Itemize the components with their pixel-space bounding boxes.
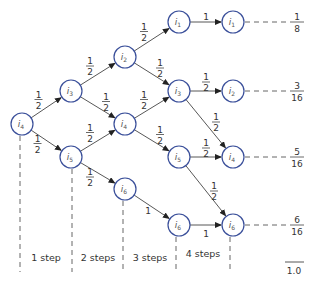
edge-arrow (134, 97, 168, 118)
step-label: 2 steps (81, 252, 116, 263)
svg-text:1: 1 (213, 112, 219, 122)
edge-arrow (80, 63, 115, 85)
outcome-probability: 616 (290, 215, 304, 237)
total-sum: 1.0 (285, 262, 304, 276)
state-node: i4 (222, 146, 244, 168)
svg-text:1: 1 (87, 123, 93, 133)
svg-text:2: 2 (141, 101, 147, 111)
svg-text:1: 1 (87, 56, 93, 66)
svg-text:2: 2 (157, 69, 163, 79)
state-node: i4 (11, 113, 33, 135)
svg-text:1: 1 (141, 22, 147, 32)
state-node: i2 (222, 80, 244, 102)
svg-text:1: 1 (157, 58, 163, 68)
state-node: i6 (222, 214, 244, 236)
svg-text:2: 2 (203, 149, 209, 159)
svg-text:2: 2 (87, 67, 93, 77)
svg-text:2: 2 (36, 101, 42, 111)
state-node: i4 (114, 113, 136, 135)
outcome-leaders (245, 22, 290, 225)
edge-arrow (80, 163, 114, 183)
edge-probability-label: 1 (203, 12, 209, 22)
svg-text:1: 1 (203, 12, 209, 22)
edge-probability-label: 12 (35, 90, 43, 111)
svg-text:1: 1 (145, 206, 151, 216)
edge-probability-label: 12 (202, 72, 210, 93)
svg-text:16: 16 (291, 227, 303, 237)
svg-text:1: 1 (103, 92, 109, 102)
svg-text:2: 2 (211, 192, 217, 202)
state-node: i3 (60, 80, 82, 102)
state-node: i6 (114, 178, 136, 200)
nodes: i4i3i5i2i4i6i1i3i5i6i1i2i4i6 (11, 11, 244, 236)
svg-text:1: 1 (35, 134, 41, 144)
outcome-probability: 316 (290, 81, 304, 103)
step-label: 4 steps (186, 248, 221, 259)
outcomes: 18316516616 (290, 12, 304, 237)
state-node: i1 (222, 11, 244, 33)
svg-text:1: 1 (157, 125, 163, 135)
svg-text:1: 1 (141, 90, 147, 100)
svg-text:2: 2 (103, 103, 109, 113)
total-value: 1.0 (287, 266, 302, 276)
edge-arrow (134, 29, 169, 51)
edge-probability-label: 12 (34, 134, 42, 155)
svg-text:16: 16 (291, 93, 303, 103)
edge-probability-label: 12 (86, 167, 94, 188)
edge-probability-label: 12 (86, 123, 94, 144)
step-labels: 1 step2 steps3 steps4 steps (31, 248, 220, 263)
svg-text:2: 2 (157, 136, 163, 146)
svg-text:2: 2 (35, 145, 41, 155)
svg-text:1: 1 (211, 181, 217, 191)
edge-probability-label: 12 (140, 22, 148, 43)
outcome-probability: 18 (290, 12, 304, 34)
edge-probability-label: 12 (210, 181, 218, 202)
step-label: 3 steps (133, 252, 168, 263)
svg-text:2: 2 (87, 134, 93, 144)
state-node: i5 (60, 146, 82, 168)
edge-probability-label: 12 (212, 112, 220, 133)
state-node: i6 (168, 214, 190, 236)
edge-probability-label: 12 (86, 56, 94, 77)
state-node: i3 (168, 80, 190, 102)
edge-probability-label: 12 (102, 92, 110, 113)
diagram-canvas: 1212121212121212121211121212121 i4i3i5i2… (0, 0, 311, 282)
svg-text:2: 2 (141, 33, 147, 43)
edge-arrow (80, 130, 114, 151)
svg-text:1: 1 (36, 90, 42, 100)
svg-text:6: 6 (294, 215, 300, 225)
edge-probability-label: 1 (203, 229, 209, 239)
svg-text:16: 16 (291, 159, 303, 169)
state-node: i5 (168, 146, 190, 168)
probability-tree-diagram: 1212121212121212121211121212121 i4i3i5i2… (0, 0, 311, 282)
state-node: i1 (168, 11, 190, 33)
svg-text:3: 3 (294, 81, 300, 91)
edge-arrow (186, 166, 226, 216)
edge-probability-label: 12 (156, 125, 164, 146)
svg-text:2: 2 (213, 123, 219, 133)
svg-text:5: 5 (294, 147, 300, 157)
svg-text:2: 2 (203, 83, 209, 93)
state-node: i2 (114, 46, 136, 68)
outcome-probability: 516 (290, 147, 304, 169)
svg-text:1: 1 (294, 12, 300, 22)
svg-text:1: 1 (203, 138, 209, 148)
svg-text:2: 2 (87, 178, 93, 188)
edge-probability-label: 12 (202, 138, 210, 159)
svg-text:1: 1 (87, 167, 93, 177)
edge-arrow (134, 130, 168, 151)
edge-arrow (80, 97, 114, 118)
svg-text:1: 1 (203, 229, 209, 239)
svg-text:8: 8 (294, 24, 300, 34)
edge-probability-label: 1 (145, 206, 151, 216)
svg-text:1: 1 (203, 72, 209, 82)
edge-arrow (134, 63, 169, 85)
edge-probability-label: 12 (156, 58, 164, 79)
edge-arrow (134, 195, 169, 218)
edge-probability-label: 12 (140, 90, 148, 111)
step-label: 1 step (31, 252, 61, 263)
